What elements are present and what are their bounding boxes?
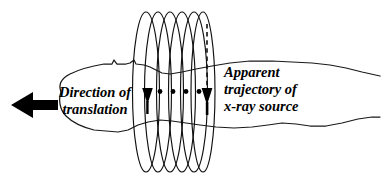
apparent-label-line2: trajectory of (224, 81, 299, 98)
helical-ct-diagram: Direction of translation Apparent trajec… (0, 0, 388, 186)
scan-axis-dots (145, 89, 210, 94)
down-arrow-right (202, 88, 213, 115)
direction-of-translation-label: Direction of translation (59, 84, 131, 118)
apparent-label-line1: Apparent (224, 64, 299, 81)
direction-label-line1: Direction of (59, 84, 131, 101)
direction-label-line2: translation (59, 101, 131, 118)
apparent-trajectory-label: Apparent trajectory of x-ray source (224, 64, 299, 115)
axis-dot (171, 89, 176, 94)
apparent-label-line3: x-ray source (224, 98, 299, 115)
axis-dot (184, 89, 189, 94)
translation-arrow (11, 92, 58, 118)
axis-dot (197, 89, 202, 94)
axis-dot (158, 89, 163, 94)
down-arrow-left (142, 88, 153, 114)
